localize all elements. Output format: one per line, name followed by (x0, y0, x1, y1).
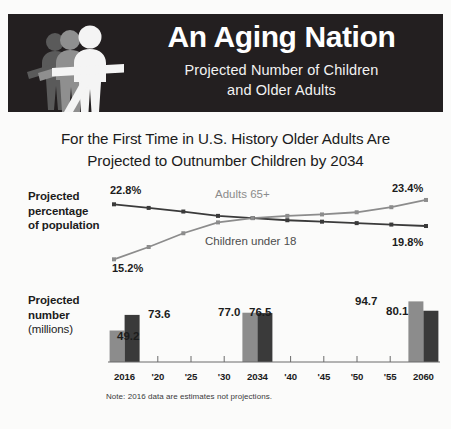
page-subtitle: Projected Number of Children and Older A… (124, 60, 439, 100)
data-point-marker (216, 214, 220, 218)
series-name-adults: Adults 65+ (215, 188, 270, 200)
header-band: An Aging Nation Projected Number of Chil… (8, 14, 443, 112)
bar-adults-2034 (242, 313, 257, 362)
deck-headline: For the First Time in U.S. History Older… (24, 128, 427, 172)
data-point-marker (181, 231, 185, 235)
bar-children-2034 (257, 313, 272, 362)
bar-adults-2060 (408, 301, 423, 362)
x-tick-55: '55 (384, 371, 397, 382)
data-point-marker (285, 218, 289, 222)
data-point-marker (216, 220, 220, 224)
data-point-marker (355, 221, 359, 225)
line-chart (108, 182, 438, 278)
x-tick-25: '25 (185, 371, 198, 382)
deck-line2: Projected to Outnumber Children by 2034 (24, 150, 427, 172)
x-tick-40: '40 (284, 371, 297, 382)
page-subtitle-line1: Projected Number of Children (124, 60, 439, 80)
data-point-marker (389, 223, 393, 227)
x-tick-20: '20 (151, 371, 164, 382)
data-point-marker (181, 210, 185, 214)
x-tick-50: '50 (351, 371, 364, 382)
bar-value-2060-children: 80.1 (386, 305, 408, 317)
line-label-children-end: 19.8% (392, 236, 423, 248)
x-tick-2034: 2034 (247, 371, 268, 382)
x-axis-tick-labels: 2016'20'25'302034'40'45'50'552060 (108, 371, 440, 387)
x-tick-2060: 2060 (413, 371, 434, 382)
data-point-marker (285, 214, 289, 218)
data-point-marker (147, 245, 151, 249)
x-tick-2016: 2016 (114, 371, 135, 382)
data-point-marker (320, 220, 324, 224)
data-point-marker (389, 205, 393, 209)
page-title: An Aging Nation (124, 20, 439, 54)
bar-value-2060-adults: 94.7 (355, 295, 377, 307)
series-markers-adults (112, 198, 428, 261)
data-point-marker (251, 216, 255, 220)
three-people-icon (22, 20, 132, 112)
line-label-adults-end: 23.4% (392, 182, 423, 194)
line-label-children-start: 22.8% (110, 184, 141, 196)
data-point-marker (112, 202, 116, 206)
line-label-adults-start: 15.2% (112, 262, 143, 274)
axis-ticks (158, 356, 390, 362)
bar-children-2060 (423, 311, 438, 362)
data-point-marker (320, 212, 324, 216)
page-subtitle-line2: and Older Adults (124, 80, 439, 100)
bar-value-2034-adults: 77.0 (218, 306, 240, 318)
bar-value-2034-children: 76.5 (249, 306, 271, 318)
data-point-marker (424, 224, 428, 228)
bar-value-2016-adults: 49.2 (117, 330, 139, 342)
chart-note: Note: 2016 data are estimates not projec… (106, 392, 272, 401)
data-point-marker (424, 198, 428, 202)
infographic-root: An Aging Nation Projected Number of Chil… (0, 0, 451, 429)
deck-line1: For the First Time in U.S. History Older… (24, 128, 427, 150)
x-tick-30: '30 (218, 371, 231, 382)
bar-value-2016-children: 73.6 (148, 308, 170, 320)
data-point-marker (355, 210, 359, 214)
series-name-children: Children under 18 (205, 235, 296, 247)
series-line-children (114, 204, 426, 226)
data-point-marker (112, 257, 116, 261)
x-tick-45: '45 (317, 371, 330, 382)
data-point-marker (147, 206, 151, 210)
